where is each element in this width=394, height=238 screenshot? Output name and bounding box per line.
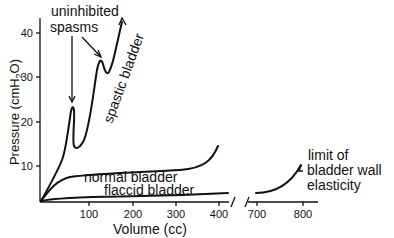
x-axis <box>40 197 318 207</box>
label-spastic-bladder: spastic bladder <box>100 31 147 125</box>
label-flaccid-bladder: flaccid bladder <box>104 182 195 198</box>
y-tick-40: 40 <box>21 27 33 39</box>
label-uninhibited: uninhibited <box>51 3 119 19</box>
limit-elasticity-curve <box>256 165 301 193</box>
label-limit-2: bladder wall <box>307 162 382 178</box>
y-tick-labels: 40 30 20 10 <box>21 27 33 172</box>
x-tick-700: 700 <box>248 208 266 220</box>
x-tick-400: 400 <box>210 208 228 220</box>
label-limit-1: limit of <box>308 147 349 163</box>
y-tick-10: 10 <box>21 160 33 172</box>
x-axis-title: Volume (cc) <box>113 221 187 237</box>
pressure-volume-chart: 40 30 20 10 100 200 300 400 700 800 Volu… <box>0 0 394 238</box>
y-axis <box>36 18 40 202</box>
annotation-arrows <box>69 18 303 171</box>
x-tick-800: 800 <box>294 208 312 220</box>
x-tick-labels: 100 200 300 400 700 800 <box>80 208 312 220</box>
x-tick-300: 300 <box>167 208 185 220</box>
label-spasms: spasms <box>50 19 98 35</box>
y-axis-title: Pressure (cmH2O) <box>7 59 24 165</box>
x-tick-200: 200 <box>124 208 142 220</box>
y-tick-20: 20 <box>21 116 33 128</box>
x-tick-100: 100 <box>80 208 98 220</box>
label-limit-3: elasticity <box>307 177 361 193</box>
